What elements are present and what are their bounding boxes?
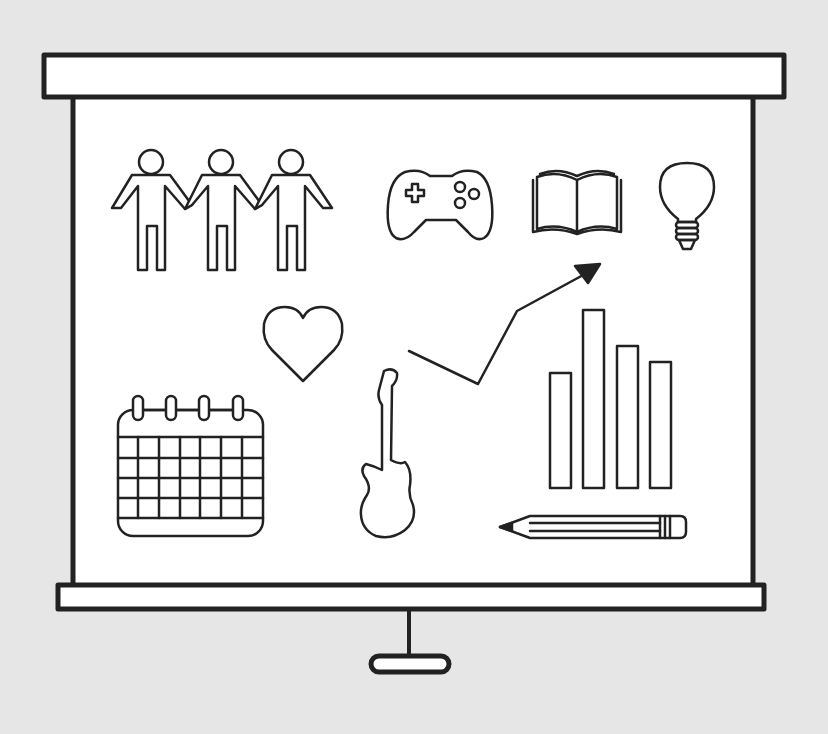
projector-screen-illustration: [0, 0, 828, 734]
bottom-weight-bar: [58, 585, 764, 609]
pull-cord-handle: [371, 611, 449, 672]
top-roller-bar: [44, 55, 784, 97]
